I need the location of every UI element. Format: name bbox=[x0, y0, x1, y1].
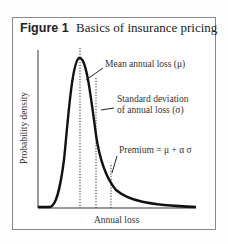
density-curve bbox=[38, 58, 196, 207]
chart-plot: Mean annual loss (μ) Standard deviation … bbox=[0, 0, 228, 244]
x-axis-label: Annual loss bbox=[94, 215, 139, 225]
sd-label-line1: Standard deviation bbox=[117, 94, 189, 104]
sd-pointer bbox=[101, 108, 114, 110]
y-axis-label: Probability density bbox=[19, 92, 29, 164]
mean-label: Mean annual loss (μ) bbox=[105, 59, 185, 70]
premium-pointer bbox=[112, 156, 117, 173]
sd-label-line2: of annual loss (σ) bbox=[117, 105, 184, 116]
mean-pointer bbox=[86, 68, 103, 80]
premium-label: Premium = μ + α σ bbox=[119, 145, 192, 155]
